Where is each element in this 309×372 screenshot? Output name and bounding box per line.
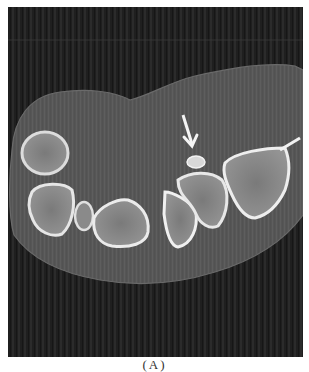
bone-capitate <box>94 200 149 247</box>
bone-small-hook <box>75 202 93 230</box>
figure-caption: (A) <box>0 358 309 372</box>
bone-pisiform <box>22 132 68 174</box>
ct-image <box>8 7 303 357</box>
bone-fragment <box>187 156 205 168</box>
